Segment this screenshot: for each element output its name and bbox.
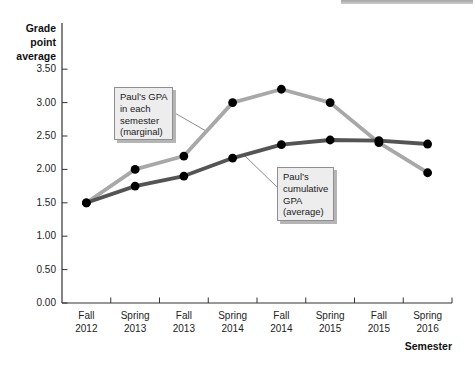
callout-marginal-gpa: Paul’s GPA in each semester (marginal) — [114, 87, 173, 140]
data-point-marker — [277, 140, 286, 149]
y-tick-label: 2.50 — [18, 130, 56, 142]
data-point-marker — [179, 172, 188, 181]
gpa-figure-page: Grade point average Paul’s GPA in each s… — [0, 0, 475, 368]
data-point-marker — [228, 154, 237, 163]
data-point-marker — [374, 136, 383, 145]
x-tick-label: Spring 2014 — [208, 309, 258, 335]
x-tick-label: Fall 2013 — [159, 309, 209, 335]
x-tick-label: Spring 2016 — [403, 309, 453, 335]
x-tick-label: Fall 2012 — [61, 309, 111, 335]
data-point-marker — [131, 165, 140, 174]
y-tick-label: 0.00 — [18, 297, 56, 309]
callout-cumulative-gpa: Paul’s cumulative GPA (average) — [277, 167, 334, 221]
data-point-marker — [179, 152, 188, 161]
callout-connector-line — [173, 112, 206, 131]
data-point-marker — [277, 85, 286, 94]
y-tick-label: 2.00 — [18, 163, 56, 175]
data-point-marker — [423, 168, 432, 177]
data-point-marker — [131, 182, 140, 191]
data-point-marker — [82, 198, 91, 207]
y-tick-label: 0.50 — [18, 264, 56, 276]
y-tick-label: 1.00 — [18, 230, 56, 242]
data-point-marker — [326, 136, 335, 145]
callout-connector-line — [244, 155, 277, 187]
x-tick-label: Spring 2015 — [305, 309, 355, 335]
x-tick-label: Fall 2014 — [256, 309, 306, 335]
y-tick-label: 3.50 — [18, 63, 56, 75]
data-point-marker — [326, 98, 335, 107]
x-tick-label: Spring 2013 — [110, 309, 160, 335]
x-axis-title: Semester — [352, 340, 452, 352]
y-tick-label: 1.50 — [18, 197, 56, 209]
data-point-marker — [228, 98, 237, 107]
y-tick-label: 3.00 — [18, 97, 56, 109]
x-tick-label: Fall 2015 — [354, 309, 404, 335]
data-point-marker — [423, 140, 432, 149]
